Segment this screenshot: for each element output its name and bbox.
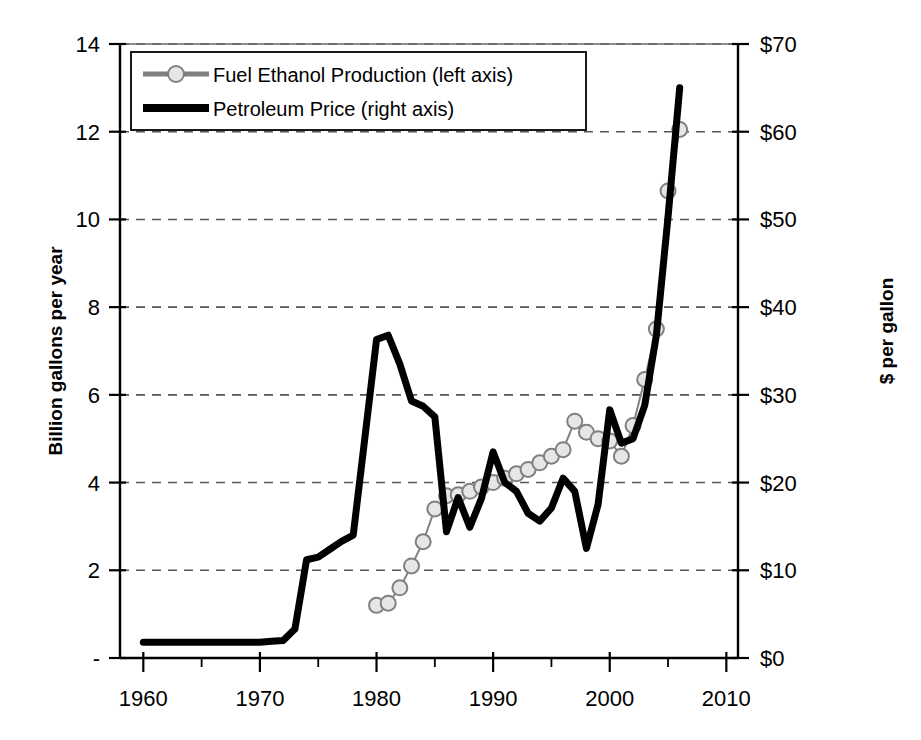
chart-container: 196019701980199020002010 -2468101214 $0$…	[0, 0, 921, 740]
x-tick-label: 2010	[702, 686, 751, 711]
x-tick-label: 1960	[119, 686, 168, 711]
x-tick-label: 1990	[469, 686, 518, 711]
x-tick-label: 2000	[585, 686, 634, 711]
series-marker	[381, 596, 396, 611]
y-tick-label-left: 12	[76, 120, 100, 145]
dual-axis-line-chart: 196019701980199020002010 -2468101214 $0$…	[0, 0, 921, 740]
legend-box: Fuel Ethanol Production (left axis)Petro…	[131, 52, 586, 130]
series-marker	[614, 449, 629, 464]
series-marker	[392, 580, 407, 595]
x-tick-label: 1970	[235, 686, 284, 711]
y-tick-label-right: $10	[760, 558, 797, 583]
y-axis-left-title: Billion gallons per year	[45, 246, 66, 456]
y-tick-label-right: $50	[760, 207, 797, 232]
series-marker	[427, 501, 442, 516]
y-tick-label-left: -	[93, 646, 100, 671]
y-tick-label-right: $60	[760, 120, 797, 145]
y-tick-label-right: $20	[760, 471, 797, 496]
y-tick-label-left: 14	[76, 32, 100, 57]
series-marker	[556, 442, 571, 457]
legend-item-label: Petroleum Price (right axis)	[213, 98, 454, 120]
legend-item-label: Fuel Ethanol Production (left axis)	[213, 64, 513, 86]
y-tick-label-right: $70	[760, 32, 797, 57]
y-tick-label-right: $40	[760, 295, 797, 320]
series-marker	[567, 414, 582, 429]
series-marker	[416, 534, 431, 549]
y-axis-right-title: $ per gallon	[876, 278, 897, 385]
legend-marker-icon	[168, 66, 184, 82]
y-tick-label-left: 10	[76, 207, 100, 232]
y-tick-label-left: 4	[88, 471, 100, 496]
series-marker	[404, 558, 419, 573]
y-tick-label-left: 6	[88, 383, 100, 408]
y-tick-label-left: 2	[88, 558, 100, 583]
y-tick-label-right: $0	[760, 646, 784, 671]
y-tick-label-left: 8	[88, 295, 100, 320]
x-tick-label: 1980	[352, 686, 401, 711]
y-tick-label-right: $30	[760, 383, 797, 408]
